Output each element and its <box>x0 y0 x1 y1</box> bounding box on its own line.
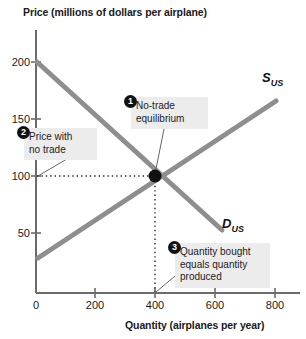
x-tick-label-0: 0 <box>16 299 56 311</box>
y-tick-label-150: 150 <box>2 113 30 125</box>
leader-line-1 <box>155 124 165 174</box>
supply-curve-label-base: S <box>262 70 271 85</box>
chart-plot-area <box>0 0 306 339</box>
annotation-callout-3: Quantity bought equals quantity produced <box>175 243 270 288</box>
demand-curve-label: DUS <box>222 216 244 234</box>
annotation-callout-2: Price with no trade <box>24 128 97 160</box>
demand-curve-label-base: D <box>222 216 231 231</box>
x-tick-label-400: 400 <box>135 299 175 311</box>
x-tick-label-200: 200 <box>75 299 115 311</box>
demand-curve-label-sub: US <box>231 224 244 234</box>
x-tick-label-600: 600 <box>195 299 235 311</box>
equilibrium-point-marker <box>149 170 162 183</box>
x-tick-label-800: 800 <box>255 299 295 311</box>
supply-curve-label-sub: US <box>271 78 284 88</box>
y-tick-label-200: 200 <box>2 56 30 68</box>
annotation-badge-1: 1 <box>124 95 137 108</box>
y-tick-label-50: 50 <box>2 227 30 239</box>
y-tick-label-100: 100 <box>2 170 30 182</box>
chart-figure: Price (millions of dollars per airplane)… <box>0 0 306 339</box>
annotation-badge-2: 2 <box>17 126 30 139</box>
supply-curve-label: SUS <box>262 70 283 88</box>
annotation-callout-1: No-trade equilibrium <box>131 97 208 129</box>
annotation-badge-3: 3 <box>168 241 181 254</box>
x-axis-title: Quantity (airplanes per year) <box>125 319 264 331</box>
y-axis-title: Price (millions of dollars per airplane) <box>23 6 207 18</box>
